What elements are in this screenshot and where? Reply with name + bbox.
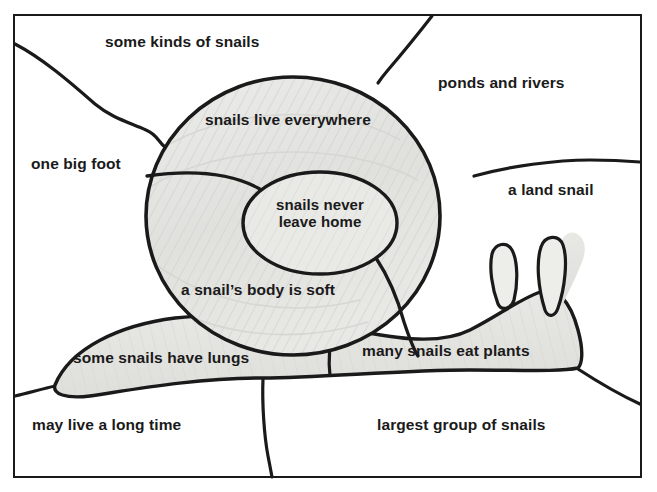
label-some-snails-have-lungs: some snails have lungs <box>73 349 249 366</box>
label-a-snails-body-is-soft: a snail’s body is soft <box>181 281 335 298</box>
label-snails-never-leave-home: snails never leave home <box>276 197 364 231</box>
label-one-big-foot: one big foot <box>31 155 121 172</box>
label-largest-group-of-snails: largest group of snails <box>377 416 546 433</box>
label-may-live-a-long-time: may live a long time <box>32 416 181 433</box>
label-ponds-and-rivers: ponds and rivers <box>438 74 565 91</box>
label-some-kinds-of-snails: some kinds of snails <box>105 33 259 50</box>
label-many-snails-eat-plants: many snails eat plants <box>362 342 530 359</box>
snail-diagram-page: some kinds of snails ponds and rivers sn… <box>0 0 657 492</box>
label-snails-live-everywhere: snails live everywhere <box>205 111 371 128</box>
label-a-land-snail: a land snail <box>508 181 594 198</box>
tentacle-left-icon <box>491 244 517 308</box>
